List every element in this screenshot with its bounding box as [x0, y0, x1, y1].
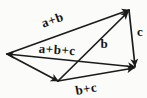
label-b-plus-c: b+c: [74, 79, 98, 98]
label-b: b: [100, 36, 107, 51]
label-c: c: [137, 24, 143, 39]
label-a-plus-b: a+b: [39, 9, 65, 31]
diagram-canvas: a+b a+b+c b c b+c: [0, 0, 147, 98]
vector-c-line: [129, 10, 135, 66]
label-a-plus-b-plus-c: a+b+c: [38, 41, 76, 59]
vector-addition-diagram: a+b a+b+c b c b+c: [0, 0, 147, 98]
